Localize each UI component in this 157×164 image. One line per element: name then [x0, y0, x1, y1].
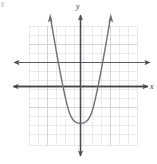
y-axis-label: y	[76, 3, 80, 11]
parabola-left-arrowhead	[48, 14, 53, 23]
graph-figure: y x	[0, 0, 157, 164]
parabola-right-arrowhead	[108, 14, 113, 23]
x-axis-label: x	[150, 83, 154, 91]
coordinate-plane-svg	[0, 0, 157, 164]
